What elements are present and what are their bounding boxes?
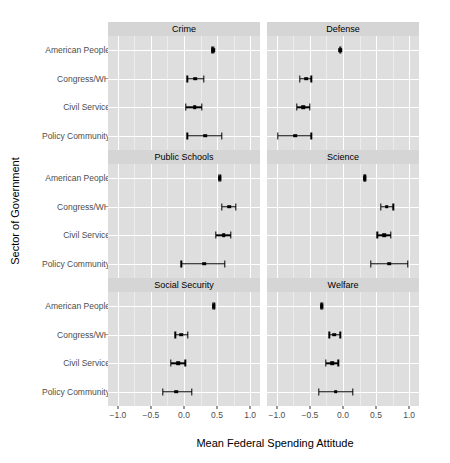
y-axis-tick-label: Policy Community [14,259,110,269]
x-axis-tick-label: 0.5 [211,410,223,420]
x-axis-tick-group: −1.0−0.50.00.51.0 [108,406,260,422]
gridline-major-horizontal [108,178,260,179]
y-axis-tick-labels: American PeopleCongress/WHCivil ServiceP… [10,0,110,463]
gridline-major-vertical [118,36,119,150]
whisker-cap [235,203,236,210]
y-axis-tick-label: Civil Service [14,230,110,240]
whisker-cap [181,260,182,267]
gridline-minor-vertical [326,36,327,150]
panel-plot-area [108,36,260,150]
data-point [387,262,391,266]
panel-plot-area [267,292,419,406]
whisker-cap [185,104,186,111]
panel-plot-area [267,36,419,150]
gridline-minor-vertical [360,164,361,278]
y-axis-tick-label: American People [14,173,110,183]
whisker-cap [224,260,225,267]
x-axis-tick-label: −0.5 [143,410,160,420]
x-axis-tick-label: −1.0 [269,410,286,420]
facet-panel: Crime [108,22,260,150]
gridline-minor-vertical [360,292,361,406]
x-axis-tick-label: −0.5 [302,410,319,420]
gridline-major-vertical [184,36,185,150]
gridline-major-vertical [217,36,218,150]
x-axis-tick-label: 1.0 [244,410,256,420]
whisker-cap [201,104,202,111]
whisker-cap [407,260,408,267]
gridline-major-vertical [310,164,311,278]
x-axis-tick-mark [276,406,277,409]
panel-strip-label: Public Schools [108,150,260,164]
gridline-major-vertical [184,292,185,406]
gridline-major-vertical [409,292,410,406]
x-axis-tick-mark [376,406,377,409]
whisker-cap [215,232,216,239]
y-axis-tick-label: Civil Service [14,102,110,112]
whisker-cap [390,232,391,239]
gridline-minor-vertical [234,292,235,406]
y-axis-tick-label: American People [14,45,110,55]
panel-plot-area [108,292,260,406]
gridline-major-horizontal [267,178,419,179]
gridline-major-horizontal [108,235,260,236]
gridline-minor-vertical [134,164,135,278]
x-axis-tick-mark [343,406,344,409]
gridline-minor-vertical [293,164,294,278]
data-point [174,390,178,394]
data-point [227,205,231,209]
gridline-major-vertical [250,36,251,150]
data-point [333,333,337,337]
gridline-major-horizontal [267,207,419,208]
gridline-major-horizontal [267,363,419,364]
gridline-major-vertical [376,292,377,406]
whisker-cap [370,260,371,267]
gridline-major-horizontal [267,235,419,236]
gridline-major-vertical [250,164,251,278]
gridline-major-vertical [343,164,344,278]
x-axis-tick-mark [250,406,251,409]
gridline-minor-vertical [201,292,202,406]
gridline-major-horizontal [108,136,260,137]
gridline-major-horizontal [108,79,260,80]
gridline-minor-vertical [393,164,394,278]
whisker-cap [221,132,222,139]
gridline-major-vertical [277,292,278,406]
whisker-cap [311,132,312,139]
whisker-cap [175,331,176,338]
whisker-cap [191,388,192,395]
panel-strip-label: Crime [108,22,260,36]
x-axis-tick-label: 1.0 [403,410,415,420]
data-point [193,77,197,81]
panel-strip-label: Welfare [267,278,419,292]
panel-strip-label: Social Security [108,278,260,292]
gridline-major-horizontal [267,79,419,80]
gridline-major-horizontal [108,306,260,307]
y-axis-tick-label: Congress/WH [14,330,110,340]
data-point [302,105,306,109]
panel-strip-label: Defense [267,22,419,36]
gridline-major-vertical [118,292,119,406]
facet-panel: Public Schools [108,150,260,278]
x-axis-title: Mean Federal Spending Attitude [106,437,444,449]
whisker-cap [309,104,310,111]
y-axis-tick-label: Policy Community [14,387,110,397]
gridline-major-vertical [151,164,152,278]
whisker-cap [162,388,163,395]
data-point [180,333,184,337]
gridline-minor-vertical [167,164,168,278]
gridline-major-vertical [118,164,119,278]
whisker-cap [170,360,171,367]
y-axis-tick-label: Congress/WH [14,202,110,212]
gridline-minor-vertical [167,292,168,406]
gridline-minor-vertical [134,36,135,150]
data-point [176,361,180,365]
data-point [320,304,324,308]
data-point [203,262,207,266]
data-point [334,390,338,394]
gridline-major-vertical [151,36,152,150]
data-point [339,48,343,52]
x-axis-tick-label: 0.0 [337,410,349,420]
data-point [211,48,215,52]
whisker-cap [393,203,394,210]
whisker-cap [277,132,278,139]
